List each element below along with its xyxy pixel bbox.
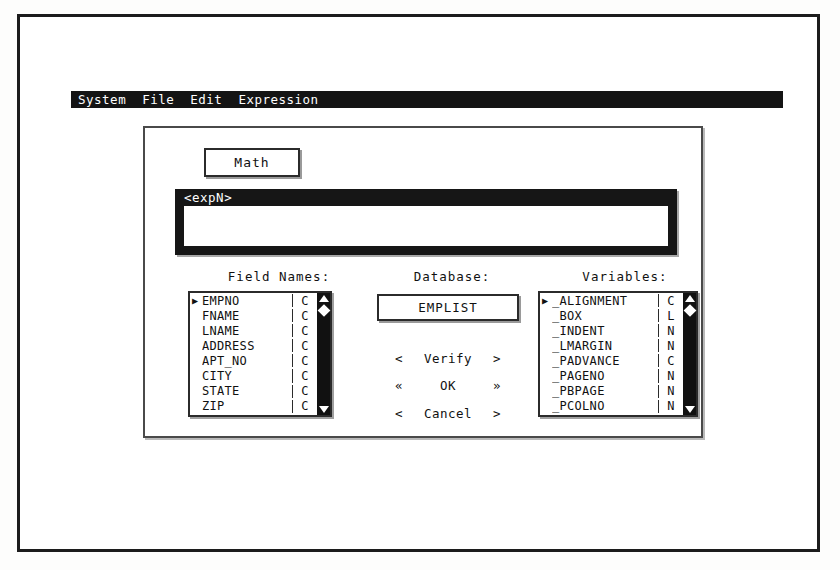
list-item[interactable]: _LMARGINN bbox=[540, 338, 683, 353]
cancel-left-bracket: < bbox=[395, 406, 403, 421]
list-item[interactable]: LNAMEC bbox=[190, 323, 317, 338]
list-item-name: LNAME bbox=[202, 324, 292, 338]
list-item[interactable]: ZIPC bbox=[190, 399, 317, 414]
row-marker-blank bbox=[190, 369, 202, 384]
list-item[interactable]: _BOXL bbox=[540, 308, 683, 323]
cancel-right-bracket: > bbox=[493, 406, 501, 421]
list-item-name: CITY bbox=[202, 369, 292, 383]
row-marker-blank bbox=[540, 338, 552, 353]
cancel-button-label: Cancel bbox=[403, 406, 493, 421]
list-item[interactable]: _INDENTN bbox=[540, 323, 683, 338]
list-item-name: _PCOLNO bbox=[552, 399, 658, 413]
list-item-type: C bbox=[293, 399, 317, 413]
row-marker-blank bbox=[540, 323, 552, 338]
variables-rows: ▶_ALIGNMENTC _BOXL _INDENTN _LMARGINN _P… bbox=[540, 293, 683, 415]
expression-builder-dialog: Math <expN> Field Names: Database: Varia… bbox=[143, 126, 703, 438]
list-item[interactable]: ADDRESSC bbox=[190, 338, 317, 353]
ok-button[interactable]: « OK » bbox=[377, 376, 519, 394]
list-item-type: C bbox=[293, 384, 317, 398]
list-item[interactable]: ▶_ALIGNMENTC bbox=[540, 293, 683, 308]
row-marker-blank bbox=[540, 384, 552, 399]
database-heading: Database: bbox=[377, 269, 527, 284]
field-names-heading: Field Names: bbox=[204, 269, 354, 284]
selection-marker-icon: ▶ bbox=[540, 293, 552, 308]
list-item[interactable]: ▶EMPNOC bbox=[190, 293, 317, 308]
variables-scrollbar[interactable] bbox=[683, 293, 696, 415]
list-item-name: _PBPAGE bbox=[552, 384, 658, 398]
expression-region: <expN> bbox=[175, 189, 677, 255]
diamond-thumb-icon[interactable] bbox=[683, 304, 696, 317]
row-marker-blank bbox=[190, 338, 202, 353]
verify-right-bracket: > bbox=[493, 351, 501, 366]
list-item-type: N bbox=[659, 324, 683, 338]
menu-item-edit[interactable]: Edit bbox=[190, 91, 230, 108]
list-item-type: N bbox=[659, 384, 683, 398]
math-button[interactable]: Math bbox=[204, 148, 300, 177]
list-item-name: _ALIGNMENT bbox=[552, 294, 658, 308]
triangle-down-icon[interactable] bbox=[685, 406, 695, 413]
list-item-name: STATE bbox=[202, 384, 292, 398]
list-item-type: L bbox=[659, 309, 683, 323]
list-item-type: C bbox=[293, 309, 317, 323]
list-item[interactable]: _PADVANCEC bbox=[540, 353, 683, 368]
row-marker-blank bbox=[190, 308, 202, 323]
variables-listbox[interactable]: ▶_ALIGNMENTC _BOXL _INDENTN _LMARGINN _P… bbox=[538, 291, 698, 417]
ok-right-bracket: » bbox=[493, 378, 501, 393]
list-item-type: C bbox=[659, 354, 683, 368]
list-item-name: FNAME bbox=[202, 309, 292, 323]
list-item-name: _PAGENO bbox=[552, 369, 658, 383]
row-marker-blank bbox=[190, 399, 202, 414]
list-item-type: C bbox=[659, 294, 683, 308]
row-marker-blank bbox=[190, 384, 202, 399]
field-names-scrollbar[interactable] bbox=[317, 293, 330, 415]
row-marker-blank bbox=[190, 353, 202, 368]
list-item[interactable]: APT_NOC bbox=[190, 353, 317, 368]
list-item[interactable]: _PBPAGEN bbox=[540, 384, 683, 399]
list-item-type: N bbox=[659, 369, 683, 383]
list-item-name: _LMARGIN bbox=[552, 339, 658, 353]
triangle-up-icon[interactable] bbox=[685, 295, 695, 302]
diamond-thumb-icon[interactable] bbox=[317, 304, 330, 317]
expression-type-label: <expN> bbox=[184, 190, 232, 205]
row-marker-blank bbox=[540, 369, 552, 384]
list-item-name: _PADVANCE bbox=[552, 354, 658, 368]
list-item-name: APT_NO bbox=[202, 354, 292, 368]
ok-button-label: OK bbox=[403, 378, 493, 393]
list-item[interactable]: _PCOLNON bbox=[540, 399, 683, 414]
menu-item-file[interactable]: File bbox=[142, 91, 182, 108]
expression-input[interactable] bbox=[184, 206, 668, 246]
list-item-name: _INDENT bbox=[552, 324, 658, 338]
selection-marker-icon: ▶ bbox=[190, 293, 202, 308]
triangle-up-icon[interactable] bbox=[319, 295, 329, 302]
list-item[interactable]: CITYC bbox=[190, 368, 317, 383]
verify-button[interactable]: < Verify > bbox=[377, 349, 519, 367]
list-item-name: _BOX bbox=[552, 309, 658, 323]
dialog-content-area: Math <expN> Field Names: Database: Varia… bbox=[145, 128, 701, 436]
list-item[interactable]: FNAMEC bbox=[190, 308, 317, 323]
field-names-listbox[interactable]: ▶EMPNOC FNAMEC LNAMEC ADDRESSC APT_NOC C… bbox=[188, 291, 332, 417]
list-item-name: EMPNO bbox=[202, 294, 292, 308]
terminal-screen-frame: System File Edit Expression Math <expN> … bbox=[17, 14, 820, 552]
row-marker-blank bbox=[540, 308, 552, 323]
list-item-type: N bbox=[659, 339, 683, 353]
ok-left-bracket: « bbox=[395, 378, 403, 393]
row-marker-blank bbox=[540, 399, 552, 414]
list-item[interactable]: STATEC bbox=[190, 384, 317, 399]
triangle-down-icon[interactable] bbox=[319, 406, 329, 413]
row-marker-blank bbox=[540, 353, 552, 368]
list-item[interactable]: _PAGENON bbox=[540, 368, 683, 383]
menu-item-expression[interactable]: Expression bbox=[238, 91, 326, 108]
list-item-type: C bbox=[293, 324, 317, 338]
list-item-name: ADDRESS bbox=[202, 339, 292, 353]
verify-button-label: Verify bbox=[403, 351, 493, 366]
menu-item-system[interactable]: System bbox=[78, 91, 134, 108]
variables-heading: Variables: bbox=[545, 269, 705, 284]
menu-bar: System File Edit Expression bbox=[71, 91, 783, 108]
verify-left-bracket: < bbox=[395, 351, 403, 366]
row-marker-blank bbox=[190, 323, 202, 338]
database-button[interactable]: EMPLIST bbox=[377, 294, 519, 321]
list-item-name: ZIP bbox=[202, 399, 292, 413]
list-item-type: N bbox=[659, 399, 683, 413]
cancel-button[interactable]: < Cancel > bbox=[377, 404, 519, 422]
list-item-type: C bbox=[293, 369, 317, 383]
